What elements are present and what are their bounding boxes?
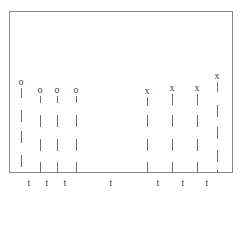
circle-marker: o [52,85,62,95]
line-dash [21,131,22,143]
cross-marker: x [212,71,222,81]
t-label: t [60,178,70,188]
line-dash [147,115,148,127]
cross-marker: x [192,83,202,93]
line-dash [76,162,77,173]
line-dash [40,139,41,151]
t-label: t [178,178,188,188]
line-dash [40,115,41,127]
line-dash [217,150,218,162]
line-dash [172,139,173,151]
line-dash [172,115,173,127]
line-dash [76,96,77,103]
line-dash [21,110,22,122]
t-label: t [202,178,212,188]
line-dash [21,155,22,167]
circle-marker: o [71,85,81,95]
line-dash [76,115,77,127]
line-dash [147,139,148,151]
cross-marker: x [142,86,152,96]
line-dash [57,139,58,151]
t-label: t [24,178,34,188]
line-dash [172,94,173,105]
line-dash [147,97,148,106]
line-dash [76,139,77,151]
circle-marker: o [16,77,26,87]
t-label: t [106,178,116,188]
circle-marker: o [35,85,45,95]
line-dash [217,127,218,139]
line-dash [40,162,41,173]
line-dash [197,94,198,105]
line-dash [197,139,198,151]
line-dash [217,105,218,117]
t-label: t [42,178,52,188]
line-dash [57,162,58,173]
line-dash [172,162,173,173]
line-dash [197,162,198,172]
line-dash [217,82,218,92]
t-label: t [153,178,163,188]
line-dash [217,170,218,173]
line-dash [40,96,41,103]
line-dash [57,115,58,127]
line-dash [197,115,198,127]
line-dash [57,96,58,103]
line-dash [21,88,22,98]
line-dash [147,162,148,173]
cross-marker: x [167,83,177,93]
